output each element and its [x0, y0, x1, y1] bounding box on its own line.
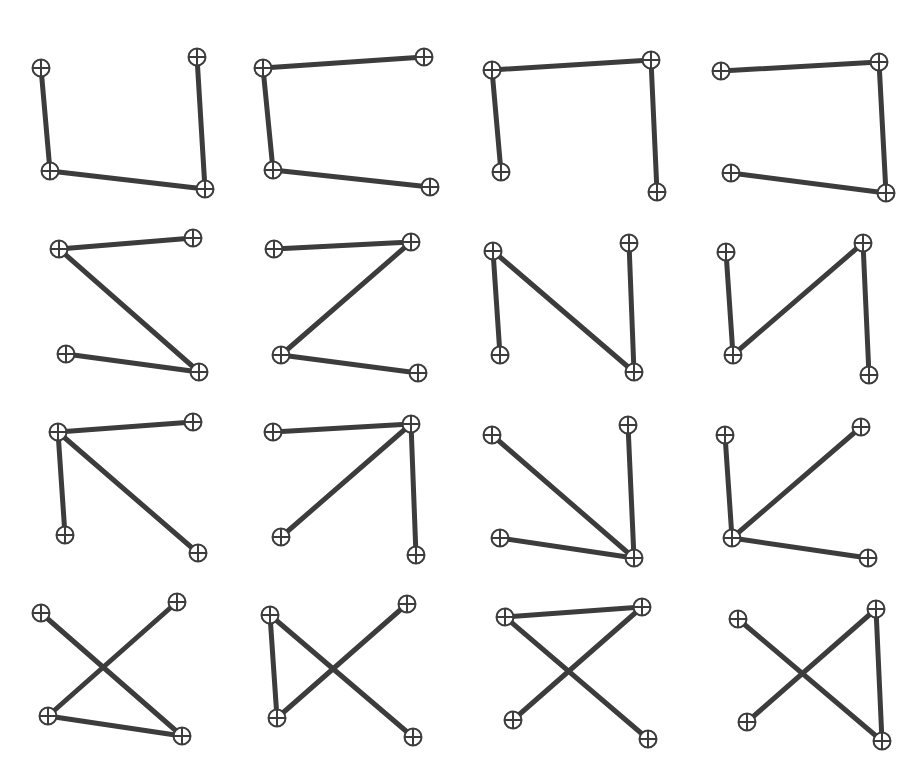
- node-marker-tr: [634, 599, 651, 616]
- node-marker-bl: [42, 163, 59, 180]
- edge-tr-to-br: [651, 60, 657, 192]
- edge-tr-to-br: [876, 609, 882, 741]
- node-marker-tr: [399, 596, 416, 613]
- panel-15-cross-with-right-bar: [730, 601, 891, 750]
- node-marker-tl: [484, 427, 501, 444]
- edge-tr-to-br: [879, 62, 886, 193]
- edge-tr-to-bl: [513, 607, 642, 720]
- panel-0-u-bracket: [33, 49, 214, 198]
- edge-tl-to-tr: [274, 242, 411, 249]
- node-marker-bl: [723, 165, 740, 182]
- edge-tl-to-bl: [41, 68, 50, 171]
- panel-1-c-bracket: [255, 49, 439, 196]
- edge-tr-to-bl: [747, 609, 876, 722]
- edge-tr-to-br: [411, 424, 416, 555]
- panel-11-star-hub-bottom-left: [717, 419, 877, 567]
- edge-tr-to-br: [863, 243, 869, 375]
- edge-bl-to-br: [273, 170, 430, 187]
- node-marker-tl: [718, 244, 735, 261]
- node-marker-tr: [853, 419, 870, 436]
- node-marker-tr: [416, 49, 433, 66]
- edge-br-to-bl: [731, 173, 886, 193]
- node-marker-bl: [58, 346, 75, 363]
- node-marker-bl: [40, 708, 57, 725]
- node-marker-br: [408, 547, 425, 564]
- node-marker-br: [410, 365, 427, 382]
- node-marker-tl: [51, 241, 68, 258]
- node-marker-br: [861, 367, 878, 384]
- panel-2-n-arch: [484, 52, 666, 201]
- edge-tl-to-tr: [721, 62, 879, 71]
- node-marker-tr: [621, 235, 638, 252]
- node-marker-tr: [185, 414, 202, 431]
- node-marker-br: [422, 179, 439, 196]
- edge-tr-to-tl: [59, 238, 193, 249]
- edge-bl-to-tl: [725, 435, 732, 538]
- edge-tr-to-bl: [281, 424, 411, 537]
- panel-5-z-zigzag: [266, 234, 427, 382]
- panel-7-n-zigzag: [718, 235, 878, 384]
- node-marker-bl: [505, 712, 522, 729]
- edge-tl-to-tr: [505, 607, 642, 617]
- edge-tl-to-tr: [58, 422, 193, 432]
- edge-tl-to-bl: [263, 68, 273, 170]
- node-marker-br: [878, 185, 895, 202]
- node-marker-tl: [730, 611, 747, 628]
- node-marker-tl: [266, 241, 283, 258]
- panel-12-cross-with-bottom-bar: [33, 594, 191, 745]
- edge-tr-to-tl: [263, 57, 424, 68]
- node-marker-tl: [717, 427, 734, 444]
- edge-bl-to-tl: [493, 251, 500, 355]
- node-marker-bl: [273, 529, 290, 546]
- edge-tl-to-br: [270, 615, 413, 737]
- node-marker-tr: [403, 234, 420, 251]
- edge-bl-to-br: [732, 538, 868, 558]
- node-marker-tl: [262, 607, 279, 624]
- node-marker-bl: [265, 162, 282, 179]
- node-marker-tr: [185, 230, 202, 247]
- edge-bl-to-br: [281, 355, 418, 373]
- node-marker-br: [405, 729, 422, 746]
- node-marker-br: [874, 733, 891, 750]
- edge-bl-to-tl: [492, 70, 501, 172]
- edge-tl-to-br: [738, 619, 882, 741]
- node-marker-tl: [497, 609, 514, 626]
- edge-tl-to-br: [58, 432, 198, 553]
- node-marker-tl: [713, 63, 730, 80]
- edge-tl-to-bl: [726, 252, 733, 355]
- node-marker-br: [626, 364, 643, 381]
- edge-br-to-tr: [629, 243, 634, 372]
- node-marker-tl: [265, 424, 282, 441]
- node-marker-tr: [403, 416, 420, 433]
- node-marker-bl: [725, 347, 742, 364]
- node-marker-bl: [57, 527, 74, 544]
- edge-tl-to-tr: [492, 60, 651, 70]
- node-link-grid-canvas: [0, 0, 923, 781]
- node-marker-bl: [492, 347, 509, 364]
- panel-10-star-hub-bottom-right: [484, 417, 643, 567]
- node-marker-tr: [855, 235, 872, 252]
- node-marker-tr: [868, 601, 885, 618]
- node-marker-br: [626, 550, 643, 567]
- panel-13-cross-with-left-bar: [262, 596, 422, 746]
- node-marker-bl: [492, 530, 509, 547]
- node-marker-br: [197, 181, 214, 198]
- node-marker-bl: [724, 530, 741, 547]
- node-marker-br: [191, 364, 208, 381]
- node-marker-tl: [485, 243, 502, 260]
- edge-bl-to-tr: [733, 243, 863, 355]
- node-marker-br: [860, 550, 877, 567]
- node-marker-tr: [620, 417, 637, 434]
- node-marker-tr: [643, 52, 660, 69]
- node-marker-tl: [50, 424, 67, 441]
- edge-tr-to-tl: [273, 424, 411, 432]
- edge-tl-to-bl: [270, 615, 277, 718]
- panel-3-reverse-c-bracket: [713, 54, 895, 202]
- edge-tl-to-br: [505, 617, 648, 739]
- edge-tr-to-bl: [277, 604, 407, 718]
- edge-br-to-tr: [197, 57, 205, 189]
- node-marker-br: [649, 184, 666, 201]
- panel-9-star-hub-top-right: [265, 416, 425, 564]
- node-marker-bl: [269, 710, 286, 727]
- node-marker-br: [640, 731, 657, 748]
